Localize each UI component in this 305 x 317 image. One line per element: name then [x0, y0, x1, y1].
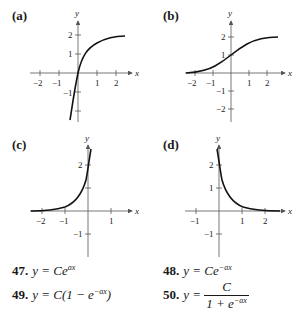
svg-text:1: 1	[221, 50, 226, 60]
svg-text:2: 2	[263, 216, 268, 226]
equation-number: 49.	[12, 287, 28, 302]
equation-47: 47.y = Ceax	[12, 263, 75, 279]
svg-text:1: 1	[240, 216, 245, 226]
svg-text:−2: −2	[216, 104, 226, 114]
svg-text:−2: −2	[36, 216, 46, 226]
svg-text:2: 2	[78, 160, 83, 170]
equation-49: 49.y = C(1 − e−ax)	[12, 287, 111, 303]
svg-text:1: 1	[209, 183, 214, 193]
svg-text:y: y	[74, 8, 79, 18]
graph-d	[185, 145, 285, 257]
svg-text:x: x	[134, 68, 139, 78]
fraction: C1 + e−ax	[204, 279, 249, 312]
svg-text:−1: −1	[216, 86, 226, 96]
svg-text:x: x	[287, 206, 292, 216]
graph-d-tick-labels: −1 12 21−1 x y	[190, 133, 292, 239]
svg-text:2: 2	[265, 78, 270, 88]
equation-48: 48.y = Ce−ax	[163, 263, 232, 279]
svg-text:−1: −1	[190, 216, 200, 226]
graph-b-tick-labels: −2−1 12 21 −1−2 x y	[187, 8, 292, 114]
svg-text:1: 1	[95, 78, 100, 88]
svg-text:2: 2	[68, 30, 73, 40]
svg-text:y: y	[84, 133, 89, 143]
svg-text:x: x	[134, 206, 139, 216]
svg-text:−2: −2	[33, 78, 43, 88]
svg-text:−1: −1	[204, 229, 214, 239]
equation-number: 47.	[12, 263, 28, 278]
svg-text:−1: −1	[59, 216, 69, 226]
svg-text:y: y	[215, 133, 220, 143]
curve-c	[31, 149, 91, 211]
svg-text:1: 1	[109, 216, 114, 226]
svg-text:−1: −1	[52, 78, 62, 88]
svg-text:y: y	[227, 8, 232, 18]
svg-text:−1: −1	[73, 229, 83, 239]
equation-number: 50.	[163, 287, 179, 302]
curve-b	[186, 37, 278, 73]
svg-text:2: 2	[209, 160, 214, 170]
equation-number: 48.	[163, 263, 179, 278]
svg-text:−1: −1	[63, 88, 73, 98]
svg-text:1: 1	[247, 78, 252, 88]
svg-text:−1: −1	[206, 78, 216, 88]
svg-text:x: x	[287, 68, 292, 78]
svg-text:2: 2	[114, 78, 119, 88]
svg-text:1: 1	[68, 49, 73, 59]
graph-c-tick-labels: −2−1 1 2−1 x y	[36, 133, 139, 239]
curve-d	[217, 149, 280, 211]
equation-50: 50.y = C1 + e−ax	[163, 279, 249, 312]
svg-text:−2: −2	[187, 78, 197, 88]
svg-text:2: 2	[221, 32, 226, 42]
